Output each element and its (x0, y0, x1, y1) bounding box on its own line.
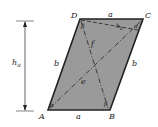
side-label-top: a (108, 10, 113, 19)
diagonal-label-e: e (81, 77, 86, 86)
angle-label-a: α (50, 101, 54, 108)
angle-label-c: α (134, 22, 138, 29)
side-label-left: b (54, 59, 59, 68)
vertex-label-a: A (38, 112, 45, 121)
arrowhead-down-icon (23, 105, 27, 111)
angle-label-b: β (103, 100, 108, 108)
arrowhead-up-icon (23, 21, 27, 27)
side-label-bottom: a (76, 112, 81, 121)
side-label-right: b (132, 59, 137, 68)
parallelogram-diagram: D C A B a a b b f e β α α β ha hb (0, 0, 158, 127)
vertex-label-c: C (145, 11, 151, 20)
vertex-label-d: D (70, 11, 78, 20)
height-label-ha: ha (12, 58, 21, 68)
angle-label-d: β (80, 22, 85, 30)
vertex-label-b: B (108, 112, 115, 121)
